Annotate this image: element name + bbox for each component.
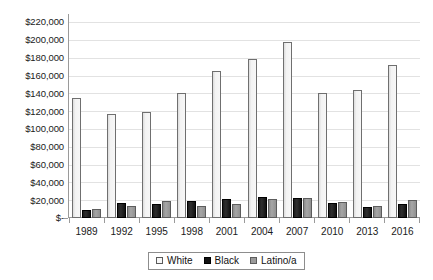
bar-group: [350, 14, 385, 218]
bar-black-1989[interactable]: [82, 210, 91, 218]
bar-group: [244, 14, 279, 218]
legend-label-white: White: [167, 255, 193, 266]
bar-white-2001[interactable]: [212, 71, 221, 218]
y-axis-tick-label: $40,000: [2, 178, 64, 188]
x-axis-tick-label: 1989: [69, 226, 104, 240]
y-axis-tick-mark: [64, 218, 68, 219]
bar-white-1992[interactable]: [107, 114, 116, 218]
y-axis-tick-label: $220,000: [2, 17, 64, 27]
legend-item-black[interactable]: Black: [204, 255, 239, 266]
bar-black-1992[interactable]: [117, 203, 126, 218]
bar-white-2013[interactable]: [353, 90, 362, 218]
bar-black-1995[interactable]: [152, 204, 161, 218]
legend-item-white[interactable]: White: [156, 255, 193, 266]
y-axis-tick-label: $-: [2, 213, 64, 223]
bar-black-1998[interactable]: [187, 201, 196, 218]
legend-label-black: Black: [215, 255, 239, 266]
bar-latino-a-2004[interactable]: [268, 199, 277, 218]
x-axis-tick-label: 2004: [244, 226, 279, 240]
bar-black-2007[interactable]: [293, 198, 302, 218]
x-axis-tick-mark: [385, 218, 420, 223]
y-axis-tick-label: $140,000: [2, 89, 64, 99]
legend: White Black Latino/a: [148, 252, 305, 270]
x-axis-tick-label: 2007: [280, 226, 315, 240]
bar-group: [385, 14, 420, 218]
bar-groups: [69, 14, 420, 218]
x-axis-tick-mark: [139, 218, 174, 223]
x-axis-tick-mark: [244, 218, 279, 223]
y-axis-tick-label: $200,000: [2, 35, 64, 45]
x-axis-tick-mark: [209, 218, 244, 223]
x-axis-tick-label: 2001: [209, 226, 244, 240]
bar-white-2010[interactable]: [318, 93, 327, 218]
y-axis-tick-label: $60,000: [2, 160, 64, 170]
x-axis-tick-label: 2016: [385, 226, 420, 240]
legend-swatch-white-icon: [156, 257, 163, 264]
legend-swatch-black-icon: [204, 257, 211, 264]
bar-white-2007[interactable]: [283, 42, 292, 218]
bar-group: [315, 14, 350, 218]
bar-group: [209, 14, 244, 218]
bar-latino-a-1995[interactable]: [162, 201, 171, 218]
y-axis-tick-label: $20,000: [2, 196, 64, 206]
bar-black-2016[interactable]: [398, 204, 407, 218]
y-axis-tick-label: $160,000: [2, 71, 64, 81]
bar-latino-a-2010[interactable]: [338, 202, 347, 218]
bar-white-1995[interactable]: [142, 112, 151, 218]
y-axis-tick-label: $180,000: [2, 53, 64, 63]
y-axis-labels: $220,000 $200,000 $180,000 $160,000 $140…: [0, 0, 64, 280]
bar-latino-a-1998[interactable]: [197, 206, 206, 218]
bar-group: [174, 14, 209, 218]
y-axis-tick-label: $120,000: [2, 107, 64, 117]
legend-label-latino: Latino/a: [261, 255, 297, 266]
bar-white-1998[interactable]: [177, 93, 186, 218]
x-axis-tick-mark: [350, 218, 385, 223]
bar-white-2016[interactable]: [388, 65, 397, 218]
x-axis-tick-label: 1998: [174, 226, 209, 240]
bar-latino-a-1992[interactable]: [127, 206, 136, 218]
bar-latino-a-2016[interactable]: [408, 200, 417, 218]
bar-black-2013[interactable]: [363, 207, 372, 218]
y-axis-tick-label: $80,000: [2, 142, 64, 152]
x-axis-labels: 1989199219951998200120042007201020132016: [69, 226, 420, 240]
bar-latino-a-2007[interactable]: [303, 198, 312, 218]
x-axis-ticks: [69, 218, 420, 223]
bar-group: [69, 14, 104, 218]
x-axis-tick-label: 2013: [350, 226, 385, 240]
bar-black-2010[interactable]: [328, 203, 337, 218]
bar-white-1989[interactable]: [72, 98, 81, 218]
x-axis-tick-mark: [69, 218, 104, 223]
x-axis-tick-label: 2010: [315, 226, 350, 240]
bar-latino-a-2001[interactable]: [232, 204, 241, 218]
bar-group: [280, 14, 315, 218]
legend-item-latino[interactable]: Latino/a: [250, 255, 297, 266]
x-axis-tick-mark: [104, 218, 139, 223]
x-axis-tick-label: 1992: [104, 226, 139, 240]
y-axis-tick-label: $100,000: [2, 124, 64, 134]
bar-black-2004[interactable]: [258, 197, 267, 218]
bar-white-2004[interactable]: [248, 59, 257, 218]
x-axis-tick-mark: [280, 218, 315, 223]
bar-latino-a-1989[interactable]: [92, 209, 101, 218]
x-axis-tick-mark: [315, 218, 350, 223]
bar-latino-a-2013[interactable]: [373, 206, 382, 218]
bar-group: [104, 14, 139, 218]
x-axis-tick-mark: [174, 218, 209, 223]
bar-group: [139, 14, 174, 218]
x-axis-tick-label: 1995: [139, 226, 174, 240]
legend-swatch-latino-icon: [250, 257, 257, 264]
bar-black-2001[interactable]: [222, 199, 231, 219]
bar-chart-figure: $220,000 $200,000 $180,000 $160,000 $140…: [0, 0, 433, 280]
